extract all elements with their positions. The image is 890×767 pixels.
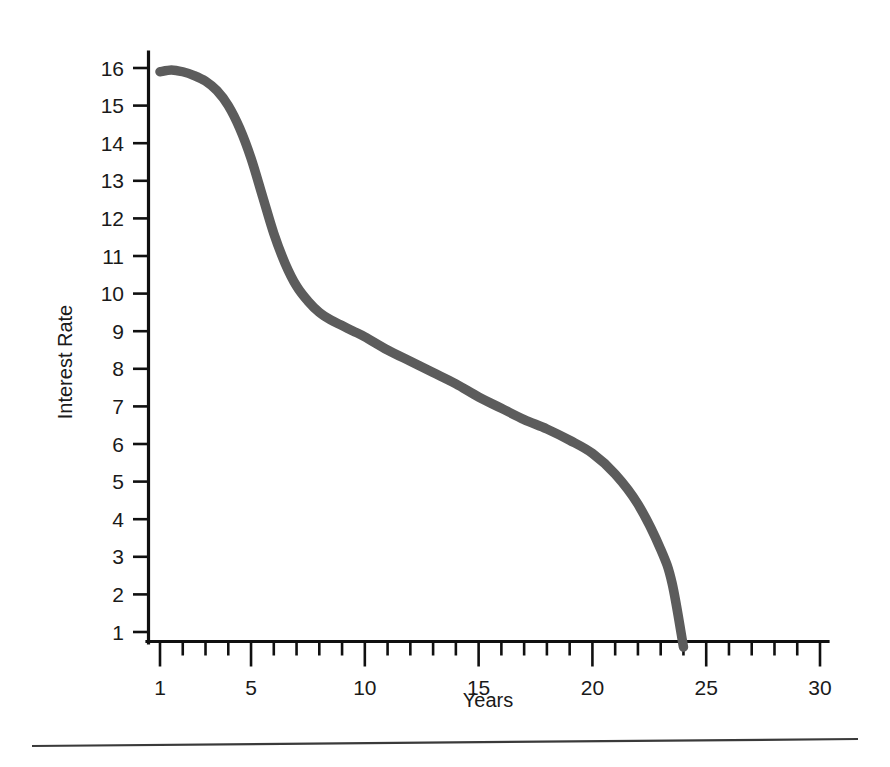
y-tick-label-6: 6 <box>112 433 124 456</box>
y-tick-label-11: 11 <box>102 245 124 268</box>
y-tick-label-1: 1 <box>112 621 124 644</box>
x-axis-title: Years <box>463 689 513 711</box>
x-tick-label-20: 20 <box>581 676 604 699</box>
x-tick-label-25: 25 <box>695 676 718 699</box>
y-tick-label-7: 7 <box>112 395 124 418</box>
y-tick-label-5: 5 <box>112 470 124 493</box>
y-tick-label-15: 15 <box>101 94 124 117</box>
y-tick-label-8: 8 <box>112 357 124 380</box>
y-tick-label-3: 3 <box>112 545 124 568</box>
y-tick-label-13: 13 <box>101 169 124 192</box>
x-tick-label-30: 30 <box>808 676 831 699</box>
y-tick-label-12: 12 <box>101 207 124 230</box>
y-tick-label-2: 2 <box>112 583 124 606</box>
y-tick-label-16: 16 <box>101 57 124 80</box>
chart-figure: 12345678910111213141516 151015202530 Yea… <box>0 0 890 767</box>
chart-svg: 12345678910111213141516 151015202530 Yea… <box>0 0 890 767</box>
y-axis-title: Interest Rate <box>54 305 76 420</box>
x-tick-label-5: 5 <box>245 676 257 699</box>
x-tick-label-10: 10 <box>353 676 376 699</box>
y-tick-label-4: 4 <box>112 508 124 531</box>
y-tick-label-9: 9 <box>112 320 124 343</box>
y-tick-label-14: 14 <box>101 132 125 155</box>
y-tick-label-10: 10 <box>101 282 124 305</box>
x-tick-label-1: 1 <box>154 676 166 699</box>
